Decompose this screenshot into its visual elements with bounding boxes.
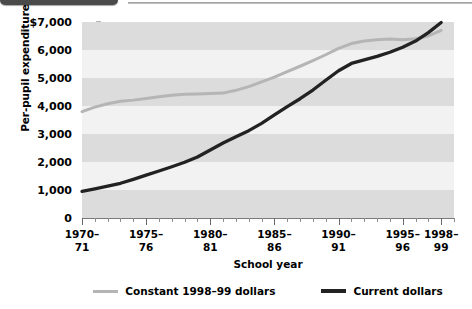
legend-swatch: [93, 290, 118, 293]
x-axis-major-tick: [146, 218, 147, 225]
chart-legend: Constant 1998–99 dollarsCurrent dollars: [82, 282, 454, 300]
x-axis-tick-label-line2: 71: [65, 241, 99, 254]
x-axis-minor-tick: [326, 218, 327, 222]
x-axis-minor-tick: [300, 218, 301, 222]
x-axis-minor-tick: [95, 218, 96, 222]
x-axis-tick-label: 1970–71: [65, 228, 99, 254]
x-axis-major-tick: [210, 218, 211, 225]
plot-lines: [82, 22, 454, 218]
x-axis-tick-label-line1: 1970–: [65, 228, 99, 241]
y-axis-tick-label: 2,000: [37, 156, 72, 169]
y-axis-tick-label: $7,000: [30, 16, 72, 29]
x-axis-tick-label-line2: 76: [129, 241, 163, 254]
x-axis-major-tick: [82, 218, 83, 225]
y-axis-tick-label: 5,000: [37, 72, 72, 85]
x-axis-minor-tick: [262, 218, 263, 222]
y-axis-tick-label: 6,000: [37, 44, 72, 57]
x-axis-minor-tick: [236, 218, 237, 222]
x-axis-tick-label-line2: 99: [424, 241, 458, 254]
y-axis-tick-label: 0: [64, 212, 72, 225]
x-axis-tick-label: 1998–99: [424, 228, 458, 254]
y-axis-tick-label: 4,000: [37, 100, 72, 113]
plot-area: [82, 22, 454, 218]
line-chart-figure: Per-pupil expenditure $7,0006,0005,0004,…: [0, 0, 472, 309]
x-axis-tick-label: 1975–76: [129, 228, 163, 254]
x-axis-tick-label-line2: 86: [257, 241, 291, 254]
y-axis-tick-label: 1,000: [37, 184, 72, 197]
x-axis-tick-label-line1: 1985–: [257, 228, 291, 241]
x-axis-minor-tick: [351, 218, 352, 222]
x-axis-minor-tick: [133, 218, 134, 222]
x-axis-tick-label-line1: 1975–: [129, 228, 163, 241]
x-axis-tick-label-line1: 1995–: [385, 228, 419, 241]
x-axis-tick-label: 1985–86: [257, 228, 291, 254]
x-axis-minor-tick: [364, 218, 365, 222]
x-axis-tick-label: 1980–81: [193, 228, 227, 254]
x-axis-minor-tick: [197, 218, 198, 222]
series-line: [82, 30, 441, 111]
x-axis-tick-label: 1990–91: [321, 228, 355, 254]
x-axis-major-tick: [441, 218, 442, 225]
x-axis-tick-label-line1: 1998–: [424, 228, 458, 241]
legend-label: Constant 1998–99 dollars: [125, 285, 275, 297]
legend-label: Current dollars: [353, 285, 442, 297]
x-axis-major-tick: [274, 218, 275, 225]
series-line: [82, 23, 441, 192]
x-axis-tick-label-line1: 1990–: [321, 228, 355, 241]
x-axis-ticks: [82, 218, 454, 226]
x-axis-minor-tick: [454, 218, 455, 222]
legend-item[interactable]: Constant 1998–99 dollars: [93, 285, 275, 297]
x-axis-minor-tick: [159, 218, 160, 222]
x-axis-minor-tick: [185, 218, 186, 222]
legend-swatch: [321, 289, 346, 293]
x-axis-minor-tick: [390, 218, 391, 222]
y-axis-tick-labels: $7,0006,0005,0004,0003,0002,0001,0000: [20, 22, 76, 218]
x-axis-tick-label-line2: 81: [193, 241, 227, 254]
x-axis-title: School year: [82, 258, 454, 270]
x-axis-tick-label-line2: 91: [321, 241, 355, 254]
legend-item[interactable]: Current dollars: [321, 285, 442, 297]
x-axis-minor-tick: [223, 218, 224, 222]
x-axis-minor-tick: [428, 218, 429, 222]
x-axis-minor-tick: [416, 218, 417, 222]
x-axis-minor-tick: [377, 218, 378, 222]
y-axis-tick-label: 3,000: [37, 128, 72, 141]
x-axis-tick-labels: 1970–711975–761980–811985–861990–911995–…: [82, 228, 454, 260]
x-axis-tick-label: 1995–96: [385, 228, 419, 254]
x-axis-tick-label-line1: 1980–: [193, 228, 227, 241]
x-axis-major-tick: [403, 218, 404, 225]
x-axis-minor-tick: [287, 218, 288, 222]
x-axis-major-tick: [339, 218, 340, 225]
x-axis-minor-tick: [172, 218, 173, 222]
x-axis-tick-label-line2: 96: [385, 241, 419, 254]
x-axis-minor-tick: [108, 218, 109, 222]
x-axis-minor-tick: [249, 218, 250, 222]
x-axis-minor-tick: [313, 218, 314, 222]
x-axis-minor-tick: [120, 218, 121, 222]
